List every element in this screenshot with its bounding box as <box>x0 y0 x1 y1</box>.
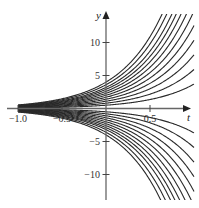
y-tick-label: −10 <box>84 169 100 180</box>
x-tick-label: 0.5 <box>144 113 157 124</box>
x-tick-label: −0.5 <box>53 113 71 124</box>
y-tick-label: 10 <box>90 37 100 48</box>
chart: −1.0−0.50.5105−5−10 y t <box>0 0 199 208</box>
y-tick-label: 5 <box>95 70 100 81</box>
y-axis-arrow-icon <box>103 11 110 19</box>
t-axis-label: t <box>187 111 191 123</box>
y-axis-label: y <box>95 9 101 21</box>
y-tick-label: −5 <box>89 136 100 147</box>
x-tick-label: −1.0 <box>9 113 27 124</box>
